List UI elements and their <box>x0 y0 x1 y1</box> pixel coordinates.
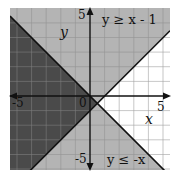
origin-label: 0 <box>79 96 87 110</box>
x-axis-label: x <box>145 111 153 127</box>
tick-label-y-pos5: 5 <box>78 8 86 22</box>
y-axis-label: y <box>59 24 69 40</box>
ineq-label-1: y ≥ x - 1 <box>101 12 157 27</box>
tick-label-x-pos5: 5 <box>157 100 165 114</box>
tick-label-x-neg5: -5 <box>12 96 24 110</box>
ineq-label-2: y ≤ -x <box>106 152 146 167</box>
inequality-graph: y ≥ x - 1 y ≤ -x y x -5 5 5 -5 0 <box>0 0 180 180</box>
tick-label-y-neg5: -5 <box>75 152 87 166</box>
